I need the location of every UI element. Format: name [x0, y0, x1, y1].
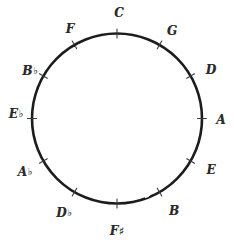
flat-icon: ♭ [33, 65, 38, 76]
note-letter: A [216, 113, 225, 127]
note-letter: F [110, 224, 119, 238]
note-label-Fs: F♯ [110, 225, 124, 237]
note-label-Bb: B♭ [22, 65, 37, 77]
note-label-D: D [206, 64, 216, 76]
flat-icon: ♭ [67, 207, 72, 218]
note-letter: F [66, 22, 75, 36]
note-letter: E [9, 107, 18, 121]
note-label-E: E [206, 164, 215, 176]
note-label-B: B [169, 205, 179, 217]
note-letter: A [18, 165, 27, 179]
note-label-F: F [66, 23, 75, 35]
circle-of-fifths-diagram: CGDAEBF♯D♭A♭E♭B♭F [0, 0, 234, 242]
note-letter: D [56, 206, 66, 220]
sharp-icon: ♯ [119, 225, 124, 238]
note-letter: E [206, 163, 215, 177]
note-label-G: G [167, 25, 177, 37]
note-label-A: A [216, 114, 225, 126]
circle-of-fifths-graphic [0, 0, 234, 242]
flat-icon: ♭ [28, 166, 33, 177]
note-label-Eb: E♭ [9, 108, 23, 120]
note-letter: G [167, 24, 177, 38]
note-label-Db: D♭ [56, 207, 72, 219]
circle-outline [32, 34, 202, 204]
note-letter: B [22, 64, 32, 78]
flat-icon: ♭ [18, 108, 23, 119]
note-label-C: C [114, 7, 124, 19]
note-letter: C [114, 6, 124, 20]
tick-marks-group [28, 29, 207, 208]
note-letter: B [169, 204, 179, 218]
note-letter: D [206, 63, 216, 77]
note-label-Ab: A♭ [18, 166, 33, 178]
